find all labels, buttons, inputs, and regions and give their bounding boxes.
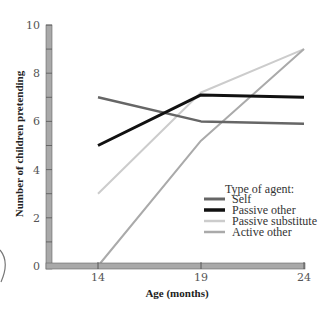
x-tick-label: 19 bbox=[194, 271, 208, 284]
x-axis-title: Age (months) bbox=[145, 287, 209, 300]
legend: Type of agent: SelfPassive otherPassive … bbox=[204, 182, 317, 239]
x-tick-label: 24 bbox=[297, 271, 311, 284]
x-axis bbox=[46, 263, 305, 269]
line-chart: 0246810 141924 Number of children preten… bbox=[0, 0, 331, 320]
y-tick-label: 0 bbox=[33, 260, 40, 273]
series-line-self bbox=[98, 97, 304, 124]
y-tick-label: 6 bbox=[33, 115, 40, 128]
scan-artifact bbox=[0, 250, 5, 282]
legend-label: Active other bbox=[232, 225, 292, 239]
x-tick-label: 14 bbox=[91, 271, 105, 284]
y-tick-label: 8 bbox=[33, 67, 40, 80]
y-axis bbox=[46, 25, 52, 269]
y-tick-label: 2 bbox=[33, 212, 40, 225]
y-axis-title: Number of children pretending bbox=[13, 70, 25, 217]
y-tick-label: 4 bbox=[33, 164, 40, 177]
y-tick-label: 10 bbox=[26, 19, 40, 32]
